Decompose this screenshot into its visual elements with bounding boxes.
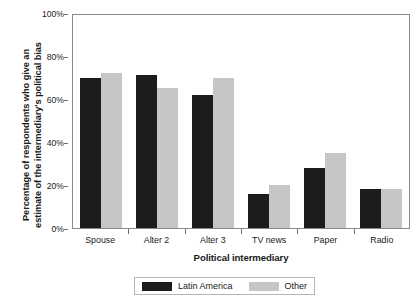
y-axis-tick-label: 80%: [47, 53, 64, 62]
x-axis-category-label: Alter 3: [185, 234, 241, 246]
y-axis-tick-label: 20%: [47, 182, 64, 191]
x-axis-title: Political intermediary: [72, 252, 410, 263]
bar: [381, 189, 402, 228]
bar-group: [353, 15, 409, 228]
plot-area: [72, 14, 410, 229]
x-axis-tick-mark: [297, 229, 298, 234]
x-axis-category-label: TV news: [241, 234, 297, 246]
legend-label: Latin America: [178, 281, 233, 291]
bar-group: [297, 15, 353, 228]
y-axis-tick-mark: [64, 14, 68, 15]
bar-chart-figure: Percentage of respondents who give an es…: [0, 0, 420, 302]
bar: [213, 78, 234, 229]
x-axis-category-label: Paper: [297, 234, 353, 246]
x-axis-tick-mark: [354, 229, 355, 234]
bar: [136, 75, 157, 228]
x-axis-tick-labels: SpouseAlter 2Alter 3TV newsPaperRadio: [72, 234, 410, 246]
y-axis-tick-label: 40%: [47, 139, 64, 148]
bar: [101, 73, 122, 228]
x-axis-category-label: Spouse: [72, 234, 128, 246]
y-axis-title-line-1: Percentage of respondents who give an: [20, 49, 33, 221]
y-axis-tick-mark: [64, 143, 68, 144]
bar: [248, 194, 269, 228]
y-axis-ticks: 0%20%40%60%80%100%: [32, 0, 68, 302]
bar-group: [73, 15, 129, 228]
bar: [157, 88, 178, 228]
legend-entry: Other: [249, 281, 308, 291]
legend-entry: Latin America: [142, 281, 233, 291]
bar-group: [185, 15, 241, 228]
y-axis-tick-mark: [64, 229, 68, 230]
legend-label: Other: [285, 281, 308, 291]
bar: [360, 189, 381, 228]
bar: [192, 95, 213, 228]
x-axis-category-label: Alter 2: [128, 234, 184, 246]
y-axis-tick-label: 100%: [42, 10, 64, 19]
y-axis-tick-label: 60%: [47, 96, 64, 105]
bar: [304, 168, 325, 228]
bar-groups: [73, 15, 409, 228]
legend-swatch-icon: [249, 282, 279, 291]
bar-group: [241, 15, 297, 228]
y-axis-tick-mark: [64, 186, 68, 187]
bar: [80, 78, 101, 229]
y-axis-tick-mark: [64, 57, 68, 58]
x-axis-category-label: Radio: [354, 234, 410, 246]
x-axis-tick-mark: [128, 229, 129, 234]
y-axis-tick-mark: [64, 100, 68, 101]
x-axis-tick-mark: [185, 229, 186, 234]
x-axis-tick-mark: [241, 229, 242, 234]
legend-swatch-icon: [142, 282, 172, 291]
bar: [325, 153, 346, 228]
chart-legend: Latin AmericaOther: [134, 277, 315, 295]
y-axis-tick-label: 0%: [52, 225, 64, 234]
bar: [269, 185, 290, 228]
bar-group: [129, 15, 185, 228]
